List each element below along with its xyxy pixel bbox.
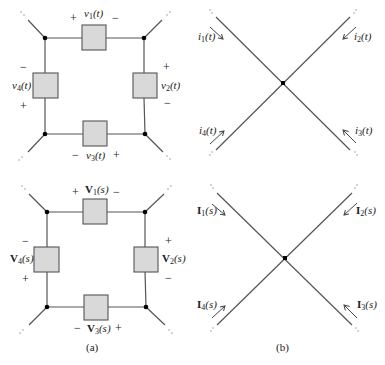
voltage-label-v1: v1(t)	[84, 7, 104, 21]
element-box-2	[134, 247, 158, 272]
node	[144, 305, 149, 310]
node	[45, 210, 50, 215]
polarity-minus: −	[164, 96, 171, 110]
element-box-3	[84, 295, 108, 320]
polarity-plus: +	[115, 321, 122, 335]
caption-a: (a)	[86, 341, 99, 354]
element-box-4	[34, 247, 59, 272]
polarity-plus: +	[70, 11, 77, 25]
polarity-minus: −	[74, 321, 81, 335]
junction-node	[283, 256, 287, 260]
lead-wire	[145, 134, 163, 152]
lead-wire	[28, 20, 45, 38]
polarity-plus: +	[163, 60, 170, 74]
kvl-kcl-figure: + v1(t) − + v2(t) − − v3(t) + − v4(t) +	[0, 0, 385, 365]
current-label-I3: I3(s)	[357, 298, 377, 312]
polarity-minus: −	[113, 185, 120, 199]
polarity-minus: −	[72, 148, 79, 162]
polarity-plus: +	[72, 185, 79, 199]
voltage-label-V2: V2(s)	[162, 252, 186, 266]
lead-wire	[29, 194, 47, 212]
voltage-label-V3: V3(s)	[87, 322, 111, 336]
lead-wire	[146, 307, 165, 325]
caption-b: (b)	[276, 341, 289, 354]
lead-wire	[29, 307, 47, 325]
lead-wire	[28, 134, 45, 152]
element-box-3	[83, 121, 107, 146]
nodes	[45, 210, 149, 310]
lead-wire	[145, 194, 164, 212]
node	[143, 210, 148, 215]
current-arrows	[212, 203, 357, 318]
arrow-icon	[344, 305, 357, 318]
node	[45, 305, 50, 310]
polarity-minus: −	[112, 11, 119, 25]
polarity-plus: +	[165, 234, 172, 248]
lead-wire	[144, 20, 162, 38]
node	[142, 36, 147, 41]
element-boxes	[34, 199, 158, 320]
voltage-label-V4: V4(s)	[10, 252, 34, 266]
element-box-4	[33, 73, 58, 98]
current-label-I2: I2(s)	[356, 204, 376, 218]
current-label-I1: I1(s)	[197, 204, 217, 218]
voltage-label-V1: V1(s)	[85, 183, 109, 197]
current-label-i4: i4(t)	[199, 124, 217, 138]
voltage-label-v3: v3(t)	[86, 149, 106, 163]
current-label-I4: I4(s)	[197, 298, 217, 312]
voltage-label-v4: v4(t)	[12, 79, 32, 93]
current-label-i1: i1(t)	[198, 30, 216, 44]
element-box-2	[133, 73, 157, 98]
element-box-1	[82, 25, 106, 50]
polarity-minus: −	[22, 234, 29, 248]
element-box-1	[83, 199, 107, 224]
current-label-i2: i2(t)	[354, 30, 372, 44]
voltage-label-v2: v2(t)	[161, 79, 181, 93]
polarity-plus: +	[20, 99, 27, 113]
wire	[145, 271, 146, 307]
current-arrows	[210, 27, 356, 144]
junction-node	[281, 81, 285, 85]
node	[43, 36, 48, 41]
polarity-minus: −	[165, 271, 172, 285]
polarity-plus: +	[113, 148, 120, 162]
node	[143, 132, 148, 137]
element-boxes	[33, 25, 157, 146]
polarity-minus: −	[20, 60, 27, 74]
wire	[144, 98, 145, 134]
node	[43, 132, 48, 137]
polarity-plus: +	[22, 272, 29, 286]
current-label-i3: i3(t)	[355, 124, 373, 138]
